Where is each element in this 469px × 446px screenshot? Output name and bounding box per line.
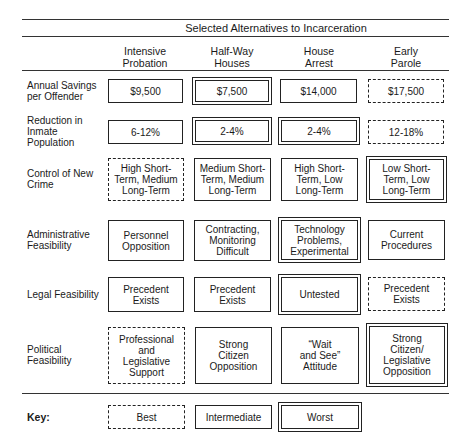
cell-control-house-arrest: High Short- Term, Low Long-Term: [281, 158, 358, 201]
cell-political-half-way-houses: Strong Citizen Opposition: [195, 327, 272, 384]
cell-admin-half-way-houses: Contracting, Monitoring Difficult: [194, 220, 271, 261]
row-label-administrative-feasibility: Administrative Feasibility: [27, 220, 107, 260]
rule-top: [22, 19, 449, 20]
cell-legal-half-way-houses: Precedent Exists: [194, 277, 271, 312]
rule-under-title: [22, 36, 449, 37]
rule-above-key: [22, 393, 449, 394]
column-header-intensive-probation: Intensive Probation: [106, 45, 184, 69]
table-title: Selected Alternatives to Incarceration: [108, 22, 444, 35]
row-label-political-feasibility: Political Feasibility: [27, 327, 107, 383]
cell-control-early-parole: Low Short- Term, Low Long-Term: [366, 156, 447, 203]
cell-reduction-early-parole: 12-18%: [368, 120, 444, 144]
cell-legal-early-parole: Precedent Exists: [368, 277, 445, 311]
cell-reduction-intensive-probation: 6-12%: [108, 120, 183, 144]
key-label: Key:: [27, 405, 107, 429]
cell-political-early-parole: Strong Citizen/ Legislative Opposition: [366, 323, 448, 387]
key-worst: Worst: [278, 402, 362, 432]
key-intermediate: Intermediate: [195, 405, 272, 429]
cell-reduction-house-arrest: 2-4%: [278, 117, 360, 145]
cell-admin-intensive-probation: Personnel Opposition: [108, 220, 184, 261]
column-header-early-parole: Early Parole: [367, 45, 445, 69]
cell-savings-intensive-probation: $9,500: [108, 79, 183, 103]
cell-savings-house-arrest: $14,000: [280, 79, 357, 103]
cell-admin-early-parole: Current Procedures: [368, 220, 445, 260]
column-header-half-way-houses: Half-Way Houses: [193, 45, 271, 69]
cell-admin-house-arrest: Technology Problems, Experimental: [278, 217, 361, 263]
cell-control-intensive-probation: High Short- Term, Medium Long-Term: [108, 158, 184, 201]
cell-political-house-arrest: “Wait and See” Attitude: [281, 327, 359, 384]
cell-political-intensive-probation: Professional and Legislative Support: [108, 327, 185, 384]
cell-savings-early-parole: $17,500: [368, 79, 444, 103]
row-label-control-new-crime: Control of New Crime: [27, 158, 107, 200]
row-label-reduction: Reduction in Inmate Population: [27, 118, 107, 144]
rule-under-headers: [22, 70, 449, 71]
row-label-legal-feasibility: Legal Feasibility: [27, 277, 107, 311]
cell-legal-house-arrest: Untested: [278, 274, 361, 315]
column-header-house-arrest: House Arrest: [280, 45, 358, 69]
cell-savings-half-way-houses: $7,500: [192, 77, 272, 105]
cell-control-half-way-houses: Medium Short- Term, Medium Long-Term: [194, 158, 271, 201]
cell-reduction-half-way-houses: 2-4%: [192, 117, 272, 145]
row-label-annual-savings: Annual Savings per Offender: [27, 78, 107, 104]
key-best: Best: [108, 405, 185, 429]
cell-legal-intensive-probation: Precedent Exists: [108, 277, 184, 312]
